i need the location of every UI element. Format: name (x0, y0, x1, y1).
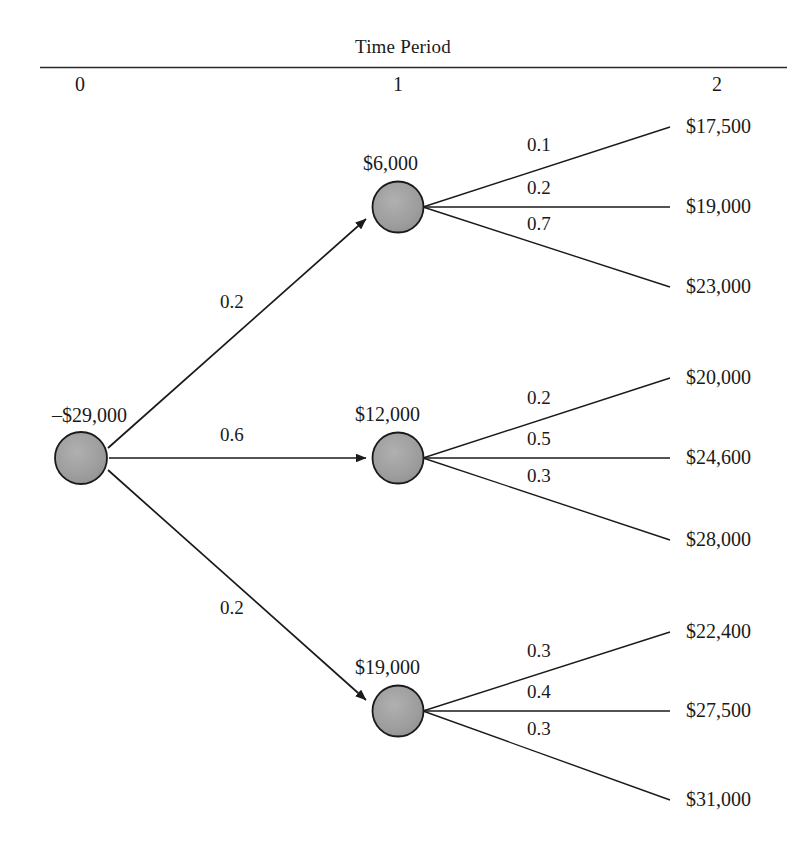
node-stage1-2-value: $12,000 (355, 403, 420, 426)
prob-node1-leaf1: 0.1 (527, 134, 551, 156)
branch-root-to-node3 (108, 470, 366, 700)
payoff-node3-leaf1: $22,400 (686, 620, 751, 643)
period-label-1: 1 (393, 73, 403, 96)
payoff-node1-leaf3: $23,000 (686, 275, 751, 298)
node-stage1-1[interactable] (373, 182, 424, 233)
payoff-node2-leaf1: $20,000 (686, 366, 751, 389)
node-stage1-2[interactable] (373, 433, 424, 484)
period-label-2: 2 (712, 73, 722, 96)
payoff-node2-leaf2: $24,600 (686, 446, 751, 469)
prob-node2-leaf2: 0.5 (527, 428, 551, 450)
node-root-value: –$29,000 (52, 404, 127, 427)
payoff-node2-leaf3: $28,000 (686, 528, 751, 551)
prob-node3-leaf1: 0.3 (527, 640, 551, 662)
period-label-0: 0 (75, 73, 85, 96)
node-root[interactable] (55, 432, 107, 484)
payoff-node3-leaf2: $27,500 (686, 699, 751, 722)
payoff-node1-leaf1: $17,500 (686, 115, 751, 138)
prob-node3-leaf3: 0.3 (527, 718, 551, 740)
node-stage1-3-value: $19,000 (355, 656, 420, 679)
payoff-node1-leaf2: $19,000 (686, 195, 751, 218)
node-stage1-3[interactable] (373, 686, 424, 737)
prob-node3-leaf2: 0.4 (527, 681, 551, 703)
branch-root-to-node1 (108, 219, 366, 448)
prob-node2-leaf3: 0.3 (527, 465, 551, 487)
prob-root-to-node2: 0.6 (220, 424, 244, 446)
node-stage1-1-value: $6,000 (363, 152, 418, 175)
page-title: Time Period (355, 36, 451, 58)
payoff-node3-leaf3: $31,000 (686, 788, 751, 811)
prob-root-to-node3: 0.2 (220, 597, 244, 619)
prob-node2-leaf1: 0.2 (527, 387, 551, 409)
prob-root-to-node1: 0.2 (220, 291, 244, 313)
prob-node1-leaf2: 0.2 (527, 177, 551, 199)
prob-node1-leaf3: 0.7 (527, 213, 551, 235)
